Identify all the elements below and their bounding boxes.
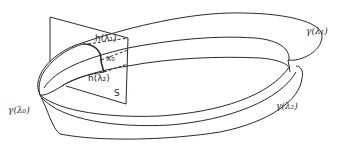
h2-dashed bbox=[104, 64, 128, 72]
orbit-lower-1 bbox=[40, 66, 290, 116]
label-h-lambda1: h(λ₁) bbox=[95, 34, 117, 43]
orbit-lower-2 bbox=[42, 72, 296, 126]
label-h-lambda2: h(λ₂) bbox=[88, 74, 110, 83]
label-gamma-lambda2: γ(λ₂) bbox=[276, 102, 298, 111]
label-section-s: S bbox=[114, 89, 120, 98]
label-gamma-lambda0: γ(λ₀) bbox=[8, 106, 30, 115]
diagram-drawing bbox=[0, 0, 349, 148]
label-gamma-lambda1: γ(λ₁) bbox=[306, 27, 328, 36]
orbit-lower-3 bbox=[40, 66, 303, 139]
diagram-canvas: h(λ₁) x₀ h(λ₂) S γ(λ₀) γ(λ₁) γ(λ₂) bbox=[0, 0, 349, 148]
label-x0: x₀ bbox=[106, 54, 115, 63]
front-fold bbox=[39, 44, 83, 95]
